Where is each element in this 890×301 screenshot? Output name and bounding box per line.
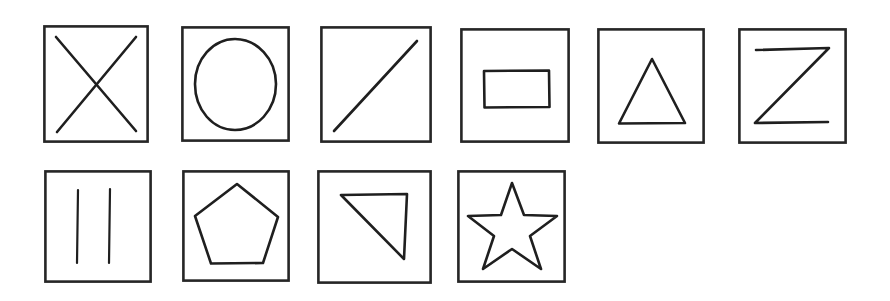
vertical-stroke-left: [77, 190, 78, 263]
two-vertical-lines-drawing: [44, 170, 152, 283]
card-frame: [598, 29, 703, 142]
rectangle-drawing: [460, 28, 570, 143]
circle-drawing: [181, 26, 290, 142]
shape-card-cross-x[interactable]: [43, 25, 149, 143]
star-outline: [468, 183, 557, 269]
letter-z-stroke: [755, 48, 829, 123]
shape-card-right-triangle[interactable]: [317, 170, 432, 284]
shape-card-letter-z[interactable]: [738, 28, 847, 144]
pentagon-outline: [195, 184, 278, 264]
shape-card-pentagon[interactable]: [182, 170, 290, 282]
card-frame: [318, 171, 430, 282]
triangle-drawing: [597, 28, 705, 144]
shape-card-diagonal-line[interactable]: [320, 26, 432, 143]
shape-card-triangle[interactable]: [597, 28, 705, 144]
cross-x-drawing: [43, 25, 149, 143]
letter-z-drawing: [738, 28, 847, 144]
circle-outline: [195, 39, 276, 130]
card-frame: [45, 171, 150, 281]
shape-card-two-vertical-lines[interactable]: [44, 170, 152, 283]
right-triangle-outline: [341, 194, 407, 259]
shape-card-circle[interactable]: [181, 26, 290, 142]
shape-card-sheet: [0, 0, 890, 301]
triangle-outline: [619, 59, 685, 124]
shape-card-rectangle[interactable]: [460, 28, 570, 143]
shape-card-five-point-star[interactable]: [457, 170, 566, 283]
diagonal-stroke: [334, 41, 417, 131]
five-point-star-drawing: [457, 170, 566, 283]
vertical-stroke-right: [109, 189, 110, 263]
inner-rectangle: [484, 71, 550, 108]
diagonal-line-drawing: [320, 26, 432, 143]
right-triangle-drawing: [317, 170, 432, 284]
card-frame: [461, 29, 568, 141]
pentagon-drawing: [182, 170, 290, 282]
card-frame: [182, 27, 288, 140]
